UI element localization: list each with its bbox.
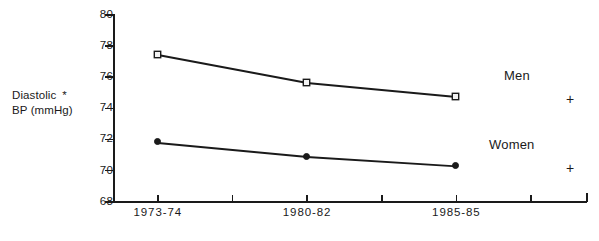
series-label-women: Women [489, 138, 535, 152]
y-axis-tick-label: 70 [89, 165, 113, 177]
y-axis-tick-label: 76 [89, 71, 113, 83]
chart-figure: Diastolic* BP (mmHg) 68707274767880 1973… [0, 0, 599, 241]
series-label-men: Men [504, 69, 530, 83]
y-axis-line [113, 14, 115, 203]
annotation-plus-men: + [566, 92, 574, 106]
x-axis-tick-label: 1980-82 [262, 206, 352, 219]
x-axis-tick [157, 195, 159, 202]
series-line-women [158, 142, 307, 158]
series-line-men [307, 82, 456, 98]
data-point-women [154, 138, 161, 145]
x-axis-tick [381, 195, 383, 202]
y-axis-tick-label: 80 [89, 9, 113, 21]
x-axis-line [113, 201, 587, 203]
x-axis-tick-label: 1973-74 [113, 206, 203, 219]
y-axis-tick-label: 68 [89, 196, 113, 208]
data-point-women [303, 153, 310, 160]
x-axis-end-cap [586, 193, 588, 202]
data-point-men [154, 51, 161, 58]
series-line-women [307, 156, 456, 167]
data-point-women [452, 162, 459, 169]
y-axis-tick-label: 78 [89, 40, 113, 52]
x-axis-tick-label: 1985-85 [411, 206, 501, 219]
y-axis-tick-label: 74 [89, 102, 113, 114]
x-axis-tick [306, 195, 308, 202]
data-point-men [452, 93, 459, 100]
series-line-men [158, 54, 308, 84]
x-axis-tick [530, 195, 532, 202]
y-axis-tick-label: 72 [89, 133, 113, 145]
footnote-asterisk: * [56, 89, 67, 101]
annotation-plus-women: + [566, 161, 574, 175]
data-point-men [303, 79, 310, 86]
y-axis-label-line1: Diastolic [12, 89, 56, 101]
x-axis-tick [232, 195, 234, 202]
x-axis-tick [456, 195, 458, 202]
